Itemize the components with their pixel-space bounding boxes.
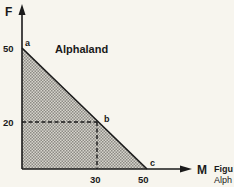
point-c-label: c <box>150 158 155 168</box>
y-axis-label: F <box>5 5 12 19</box>
x-axis-label: M <box>197 163 207 177</box>
x-tick-50: 50 <box>138 174 149 185</box>
point-b-label: b <box>104 114 110 124</box>
y-axis-arrow-icon <box>19 4 26 15</box>
ppf-chart: F M 50 20 30 50 a b c Alphaland Figu Alp… <box>0 0 234 187</box>
x-tick-30: 30 <box>90 174 101 185</box>
x-axis-arrow-icon <box>180 166 192 173</box>
caption-line-2: Alph <box>214 175 232 185</box>
caption-line-1: Figu <box>214 164 233 174</box>
chart-title: Alphaland <box>55 43 108 55</box>
y-tick-50: 50 <box>3 43 14 54</box>
y-tick-20: 20 <box>3 117 14 128</box>
point-a-label: a <box>25 38 31 48</box>
